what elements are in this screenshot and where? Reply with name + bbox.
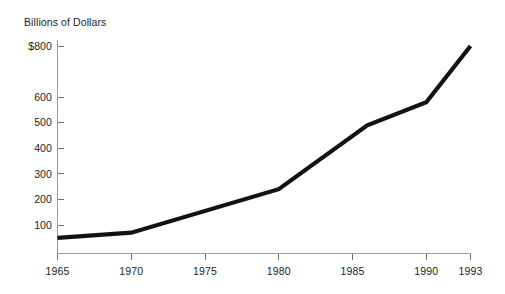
x-tick-label: 1993 bbox=[459, 265, 483, 277]
y-tick-label: 500 bbox=[34, 116, 52, 128]
x-tick-label: 1970 bbox=[119, 265, 143, 277]
y-tick-label: $800 bbox=[28, 40, 52, 52]
x-tick-label: 1975 bbox=[193, 265, 217, 277]
y-tick-label: 300 bbox=[34, 168, 52, 180]
x-tick-label: 1980 bbox=[267, 265, 291, 277]
y-axis: $800600500400300200100 bbox=[28, 40, 63, 254]
line-chart-figure: Billions of Dollars $8006005004003002001… bbox=[0, 0, 505, 294]
x-tick-label: 1965 bbox=[46, 265, 70, 277]
x-tick-label: 1990 bbox=[414, 265, 438, 277]
y-tick-label: 600 bbox=[34, 91, 52, 103]
data-series-line bbox=[58, 46, 471, 238]
y-tick-label: 200 bbox=[34, 193, 52, 205]
x-axis-ticks: 1965197019751980198519901993 bbox=[46, 254, 483, 278]
x-axis: 1965197019751980198519901993 bbox=[46, 254, 483, 278]
y-tick-label: 400 bbox=[34, 142, 52, 154]
y-axis-ticks: $800600500400300200100 bbox=[28, 40, 63, 231]
x-tick-label: 1985 bbox=[341, 265, 365, 277]
y-tick-label: 100 bbox=[34, 219, 52, 231]
plot-area: $800600500400300200100 19651970197519801… bbox=[0, 0, 505, 294]
